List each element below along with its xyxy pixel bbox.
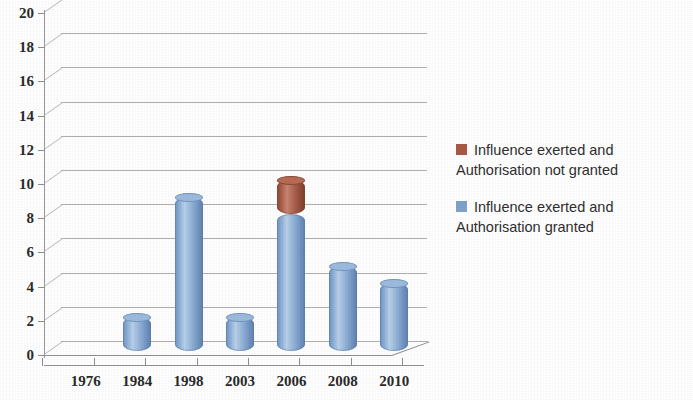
bar-chart: 20181614121086420 1976198419982003200620… bbox=[0, 0, 693, 400]
y-axis-tick bbox=[38, 321, 45, 322]
y-axis-tick bbox=[38, 218, 45, 219]
y-axis-tick bbox=[38, 252, 45, 253]
x-axis-tick bbox=[94, 358, 95, 366]
gridline-run bbox=[61, 273, 427, 274]
gridline-riser bbox=[44, 157, 62, 184]
gridline-run bbox=[61, 33, 427, 34]
legend-swatch-granted bbox=[456, 201, 467, 212]
x-axis-tick bbox=[402, 358, 403, 366]
gridline-riser bbox=[44, 226, 62, 253]
gridline-riser bbox=[44, 55, 62, 82]
gridline-run bbox=[61, 102, 427, 103]
bar-cap-granted bbox=[175, 193, 203, 202]
x-axis-tick-label: 2003 bbox=[212, 374, 268, 389]
bar-2003 bbox=[226, 317, 254, 351]
bar-segment-not-granted bbox=[277, 180, 305, 214]
x-axis-tick-label: 1976 bbox=[58, 374, 114, 389]
x-axis-line bbox=[44, 365, 424, 366]
y-axis-tick bbox=[38, 184, 45, 185]
legend-label-granted-line1: Influence exerted and bbox=[474, 199, 613, 215]
bar-2008 bbox=[329, 266, 357, 352]
bar-segment-granted bbox=[277, 214, 305, 351]
bar-cap-granted bbox=[226, 313, 254, 322]
legend-label-not-granted-line2: Authorisation not granted bbox=[456, 160, 693, 180]
x-axis-tick bbox=[197, 358, 198, 366]
gridline-riser bbox=[44, 0, 62, 13]
plot-area: 20181614121086420 1976198419982003200620… bbox=[0, 0, 460, 400]
y-axis-tick-label: 10 bbox=[0, 177, 34, 192]
legend: Influence exerted and Authorisation not … bbox=[456, 140, 693, 254]
gridline-riser bbox=[44, 21, 62, 48]
bar-2006 bbox=[277, 180, 305, 351]
gridline-riser bbox=[44, 260, 62, 287]
y-axis-tick-label: 8 bbox=[0, 211, 34, 226]
bar-cap-granted bbox=[123, 313, 151, 322]
y-axis-tick bbox=[38, 150, 45, 151]
y-axis-tick bbox=[38, 287, 45, 288]
y-axis-tick-label: 0 bbox=[0, 348, 34, 363]
bar-segment-granted bbox=[123, 317, 151, 351]
x-axis-tick-label: 1984 bbox=[109, 374, 165, 389]
y-axis-tick-label: 14 bbox=[0, 109, 34, 124]
y-axis-tick-label: 2 bbox=[0, 314, 34, 329]
bar-cap-granted bbox=[380, 279, 408, 288]
bar-1984 bbox=[123, 317, 151, 351]
y-axis-tick bbox=[38, 355, 45, 356]
gridline-riser bbox=[44, 123, 62, 150]
y-axis-tick-label: 20 bbox=[0, 6, 34, 21]
bar-1998 bbox=[175, 197, 203, 351]
y-axis-tick bbox=[38, 13, 45, 14]
y-axis-tick bbox=[38, 116, 45, 117]
x-axis-tick bbox=[42, 358, 43, 366]
legend-label-not-granted-line1: Influence exerted and bbox=[474, 142, 613, 158]
gridline-run bbox=[61, 238, 427, 239]
x-axis-tick bbox=[351, 358, 352, 366]
bar-cap-granted bbox=[329, 262, 357, 271]
gridline-riser bbox=[44, 328, 62, 355]
legend-item-granted: Influence exerted and Authorisation gran… bbox=[456, 197, 693, 237]
bar-segment-granted bbox=[329, 266, 357, 352]
bar-segment-granted bbox=[380, 283, 408, 351]
y-axis-tick-label: 18 bbox=[0, 40, 34, 55]
x-axis-tick bbox=[145, 358, 146, 366]
gridline-riser bbox=[44, 294, 62, 321]
gridline-riser bbox=[44, 192, 62, 219]
legend-label-granted-line2: Authorisation granted bbox=[456, 217, 693, 237]
x-axis-tick bbox=[299, 358, 300, 366]
bar-2010 bbox=[380, 283, 408, 351]
gridline-run bbox=[61, 67, 427, 68]
y-axis-tick-label: 6 bbox=[0, 245, 34, 260]
y-axis-tick-label: 12 bbox=[0, 143, 34, 158]
legend-item-not-granted: Influence exerted and Authorisation not … bbox=[456, 140, 693, 180]
floor-front-edge bbox=[44, 355, 392, 356]
x-axis-tick-label: 1998 bbox=[161, 374, 217, 389]
y-axis-tick bbox=[38, 47, 45, 48]
y-axis-tick-label: 4 bbox=[0, 280, 34, 295]
gridline-riser bbox=[44, 89, 62, 116]
gridline-run bbox=[61, 170, 427, 171]
gridline-run bbox=[61, 307, 427, 308]
y-axis-tick-label: 16 bbox=[0, 74, 34, 89]
x-axis-tick-label: 2006 bbox=[263, 374, 319, 389]
legend-label-not-granted: Influence exerted and Authorisation not … bbox=[456, 142, 693, 180]
y-axis-tick bbox=[38, 81, 45, 82]
gridline-run bbox=[61, 204, 427, 205]
x-axis-tick-label: 2010 bbox=[366, 374, 422, 389]
legend-swatch-not-granted bbox=[456, 144, 467, 155]
bar-segment-granted bbox=[226, 317, 254, 351]
legend-label-granted: Influence exerted and Authorisation gran… bbox=[456, 199, 693, 237]
gridline-run bbox=[61, 136, 427, 137]
x-axis-tick bbox=[248, 358, 249, 366]
bar-segment-granted bbox=[175, 197, 203, 351]
x-axis-tick-label: 2008 bbox=[315, 374, 371, 389]
